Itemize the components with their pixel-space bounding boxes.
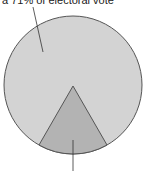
pie-chart <box>0 0 147 171</box>
